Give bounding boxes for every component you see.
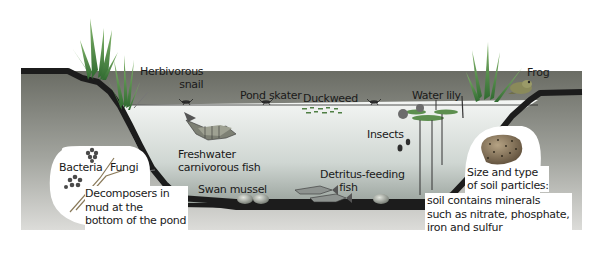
decomposers-text: Decomposers in mud at the bottom of the … xyxy=(85,186,188,230)
label-pond-skater: Pond skater xyxy=(240,89,301,102)
soil-minerals-text: soil contains minerals such as nitrate, … xyxy=(425,193,572,237)
left-reed-plant xyxy=(72,18,118,80)
label-water-lily: Water lily xyxy=(412,89,461,102)
label-swan-mussel: Swan mussel xyxy=(198,183,267,196)
soil-particles-title: Size and type of soil particles: xyxy=(467,166,549,192)
label-freshwater-carnivorous-fish: Freshwater carnivorous fish xyxy=(178,148,260,174)
label-duckweed: Duckweed xyxy=(303,92,358,105)
label-frog: Frog xyxy=(527,66,549,79)
label-herbivorous-snail: Herbivorous snail xyxy=(140,65,203,91)
label-insects: Insects xyxy=(367,128,404,141)
label-detritus-feeding-fish: Detritus-feeding fish xyxy=(320,168,405,194)
label-fungi: Fungi xyxy=(110,161,138,174)
label-bacteria: Bacteria xyxy=(59,161,102,174)
